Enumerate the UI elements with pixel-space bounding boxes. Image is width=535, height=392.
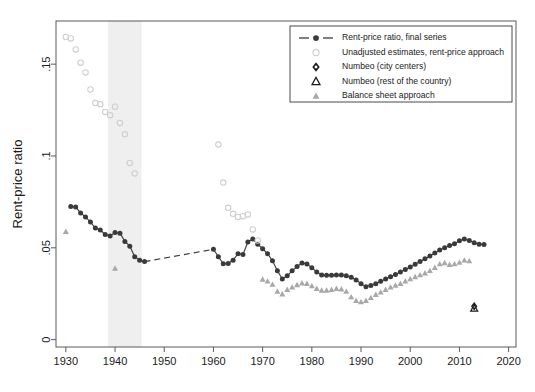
data-point-circle: [68, 204, 73, 209]
x-tick-label: 1980: [300, 355, 324, 367]
data-point-circle: [221, 261, 226, 266]
data-point-open-circle: [250, 227, 255, 232]
data-point-circle: [472, 240, 477, 245]
data-point-circle: [457, 238, 462, 243]
data-point-circle: [442, 245, 447, 250]
data-point-circle: [354, 277, 359, 282]
data-point-circle: [88, 220, 93, 225]
data-point-circle: [383, 277, 388, 282]
data-point-circle: [432, 250, 437, 255]
data-point-circle: [142, 259, 147, 264]
data-point-circle: [245, 239, 250, 244]
data-point-circle: [83, 214, 88, 219]
data-point-circle: [437, 248, 442, 253]
data-point-circle: [285, 273, 290, 278]
data-point-open-circle: [88, 87, 93, 92]
data-point-circle: [467, 238, 472, 243]
data-point-triangle: [388, 284, 394, 289]
data-point-triangle: [412, 274, 418, 279]
data-point-open-circle: [216, 142, 221, 147]
data-point-triangle: [466, 258, 472, 263]
data-point-circle: [363, 284, 368, 289]
data-point-open-circle: [225, 205, 230, 210]
data-point-triangle: [274, 288, 280, 293]
data-point-circle: [447, 243, 452, 248]
data-point-circle: [319, 273, 324, 278]
data-point-triangle: [338, 286, 344, 291]
data-point-circle: [240, 252, 245, 257]
data-point-open-circle: [78, 60, 83, 65]
x-tick-label: 1990: [349, 355, 373, 367]
data-point-circle: [226, 261, 231, 266]
data-point-circle: [482, 242, 487, 247]
data-point-open-circle: [102, 109, 107, 114]
data-point-circle: [403, 267, 408, 272]
legend-item-label: Rent-price ratio, final series: [342, 32, 447, 42]
data-point-triangle: [299, 280, 305, 285]
data-point-circle: [339, 273, 344, 278]
data-point-circle: [324, 273, 329, 278]
data-point-circle: [398, 270, 403, 275]
data-point-circle: [275, 268, 280, 273]
data-point-circle: [334, 273, 339, 278]
data-point-circle: [373, 281, 378, 286]
legend-item-label: Balance sheet approach: [342, 90, 435, 100]
data-point-circle: [290, 268, 295, 273]
data-point-open-circle: [221, 180, 226, 185]
data-point-triangle: [319, 287, 325, 292]
data-point-circle: [314, 270, 319, 275]
x-tick-label: 1940: [103, 355, 127, 367]
data-point-circle: [349, 275, 354, 280]
x-tick-label: 2000: [398, 355, 422, 367]
series-group: [63, 34, 260, 243]
data-point-circle: [132, 254, 137, 259]
wwii-shaded-band: [108, 21, 141, 347]
data-point-circle: [260, 246, 265, 251]
data-point-triangle: [432, 265, 438, 270]
data-point-open-circle: [73, 47, 78, 52]
data-point-triangle: [437, 261, 443, 266]
data-point-triangle: [294, 282, 300, 287]
data-point-circle: [108, 233, 113, 238]
x-tick-label: 1950: [152, 355, 176, 367]
data-point-circle: [73, 205, 78, 210]
data-point-circle: [427, 254, 432, 259]
data-point-circle: [98, 228, 103, 233]
data-point-circle: [117, 231, 122, 236]
data-point-circle: [127, 244, 132, 249]
data-point-circle: [344, 273, 349, 278]
data-point-triangle: [348, 294, 354, 299]
data-point-circle: [462, 237, 467, 242]
data-point-circle: [388, 274, 393, 279]
data-point-circle: [477, 242, 482, 247]
data-point-triangle: [368, 295, 374, 300]
x-tick-label: 1960: [201, 355, 225, 367]
data-point-circle: [309, 265, 314, 270]
data-point-circle: [452, 241, 457, 246]
data-point-circle: [368, 283, 373, 288]
legend-item-label: Numbeo (city centers): [342, 61, 426, 71]
data-point-open-circle: [83, 70, 88, 75]
legend: Rent-price ratio, final seriesUnadjusted…: [290, 26, 512, 102]
x-tick-label: 2020: [496, 355, 520, 367]
data-point-circle: [304, 261, 309, 266]
data-point-triangle: [452, 261, 458, 266]
data-point-circle: [216, 254, 221, 259]
chart-canvas: 1930194019501960197019801990200020102020…: [0, 0, 535, 392]
data-point-triangle: [304, 281, 310, 286]
data-point-circle: [270, 258, 275, 263]
data-point-open-circle: [230, 211, 235, 216]
data-point-circle: [329, 273, 334, 278]
y-tick-label: .1: [40, 151, 52, 160]
data-point-circle: [122, 239, 127, 244]
data-point-circle: [280, 277, 285, 282]
y-axis-title: Rent-price ratio: [10, 140, 25, 229]
data-point-triangle: [269, 281, 275, 286]
data-point-triangle: [392, 282, 398, 287]
data-point-circle: [78, 210, 83, 215]
data-point-circle: [211, 247, 216, 252]
data-point-triangle: [353, 298, 359, 303]
data-point-circle: [313, 35, 319, 41]
data-point-triangle: [417, 272, 423, 277]
data-point-triangle: [407, 276, 413, 281]
